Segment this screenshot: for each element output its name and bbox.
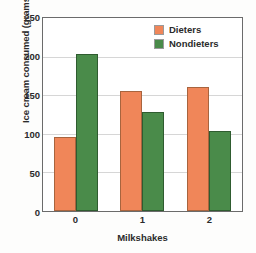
y-tick-label: 250: [14, 12, 40, 23]
x-axis-title: Milkshakes: [42, 232, 243, 243]
y-tick-label: 100: [14, 129, 40, 140]
y-tick-label: 0: [14, 207, 40, 218]
bar-nondieters: [209, 131, 231, 211]
legend-swatch-icon: [154, 25, 164, 35]
bar-dieters: [120, 91, 142, 211]
y-tick-label: 150: [14, 90, 40, 101]
bar-dieters: [54, 137, 76, 211]
y-axis-tick-labels: 250 200 150 100 50 0: [14, 17, 40, 212]
bar-chart-figure: Ice cream consumed (grams) 250 200 150 1…: [0, 0, 256, 253]
x-axis-tick-labels: 0 1 2: [42, 214, 243, 228]
bar-dieters: [187, 87, 209, 211]
legend-label: Nondieters: [169, 38, 219, 49]
bar-group: [54, 18, 98, 211]
legend-swatch-icon: [154, 39, 164, 49]
x-tick-label: 2: [181, 214, 239, 228]
x-tick-label: 0: [47, 214, 105, 228]
legend-item-dieters: Dieters: [154, 24, 219, 35]
y-tick-label: 200: [14, 51, 40, 62]
y-tick-label: 50: [14, 168, 40, 179]
legend-item-nondieters: Nondieters: [154, 38, 219, 49]
bar-nondieters: [142, 112, 164, 211]
bar-nondieters: [76, 54, 98, 211]
x-tick-label: 1: [114, 214, 172, 228]
chart-legend: Dieters Nondieters: [149, 20, 225, 53]
legend-label: Dieters: [169, 24, 201, 35]
